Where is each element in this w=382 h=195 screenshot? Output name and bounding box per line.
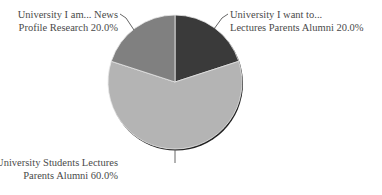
leader-line-2 bbox=[120, 14, 134, 30]
leader-line-0 bbox=[214, 14, 228, 29]
slice-label-i-am: University I am... News Profile Research… bbox=[18, 8, 118, 34]
pie-slices bbox=[108, 15, 243, 151]
slice-label-students: University Students Lectures Parents Alu… bbox=[0, 156, 118, 182]
slice-label-want-to: University I want to... Lectures Parents… bbox=[230, 8, 364, 34]
